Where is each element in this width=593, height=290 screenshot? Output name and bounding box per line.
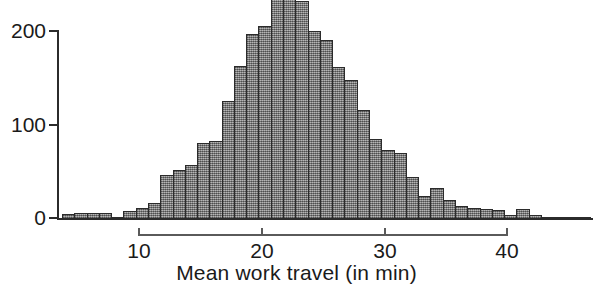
histogram-bars — [58, 0, 588, 219]
x-tick-30 — [384, 228, 386, 236]
y-tick-label-100: 100 — [11, 114, 46, 135]
x-tick-10 — [138, 228, 140, 236]
y-tick-label-0: 0 — [34, 207, 46, 228]
histogram-bar — [430, 188, 443, 219]
x-tick-label-30: 30 — [373, 240, 396, 262]
y-tick-100 — [49, 124, 58, 126]
x-tick-20 — [261, 228, 263, 236]
histogram-bar — [148, 203, 161, 219]
x-axis-line — [57, 218, 593, 220]
histogram-bar — [258, 26, 271, 219]
histogram-bar — [173, 170, 186, 219]
histogram-bar — [160, 175, 173, 219]
plot-area — [58, 0, 588, 219]
y-axis-labels: 200 100 0 — [0, 0, 46, 290]
x-tick-label-10: 10 — [127, 240, 150, 262]
histogram-bar — [394, 153, 407, 219]
histogram-bar — [320, 40, 333, 219]
histogram-bar — [185, 165, 198, 219]
histogram-bar — [369, 139, 382, 219]
histogram-bar — [234, 66, 247, 219]
histogram-bar — [406, 177, 419, 219]
histogram-bar — [332, 67, 345, 219]
histogram-bar — [357, 110, 370, 219]
histogram-bar — [246, 34, 259, 219]
histogram-bar — [295, 1, 308, 219]
x-tick-label-40: 40 — [495, 240, 518, 262]
histogram-bar — [308, 31, 321, 219]
histogram-bar — [209, 141, 222, 219]
y-tick-200 — [49, 30, 58, 32]
histogram-bar — [344, 80, 357, 219]
x-tick-40 — [506, 228, 508, 236]
histogram-bar — [381, 150, 394, 219]
histogram-bar — [197, 143, 210, 219]
histogram-bar — [271, 0, 284, 219]
histogram-bar — [283, 0, 296, 219]
x-tick-label-20: 20 — [250, 240, 273, 262]
x-axis-title: Mean work travel (in min) — [0, 262, 593, 284]
y-tick-label-200: 200 — [11, 20, 46, 41]
histogram-bar — [443, 200, 456, 219]
histogram-bar — [418, 196, 431, 220]
x-axis-rule — [138, 234, 506, 236]
histogram-figure: 200 100 0 10 20 30 40 Mean work travel (… — [0, 0, 593, 290]
histogram-bar — [222, 101, 235, 219]
